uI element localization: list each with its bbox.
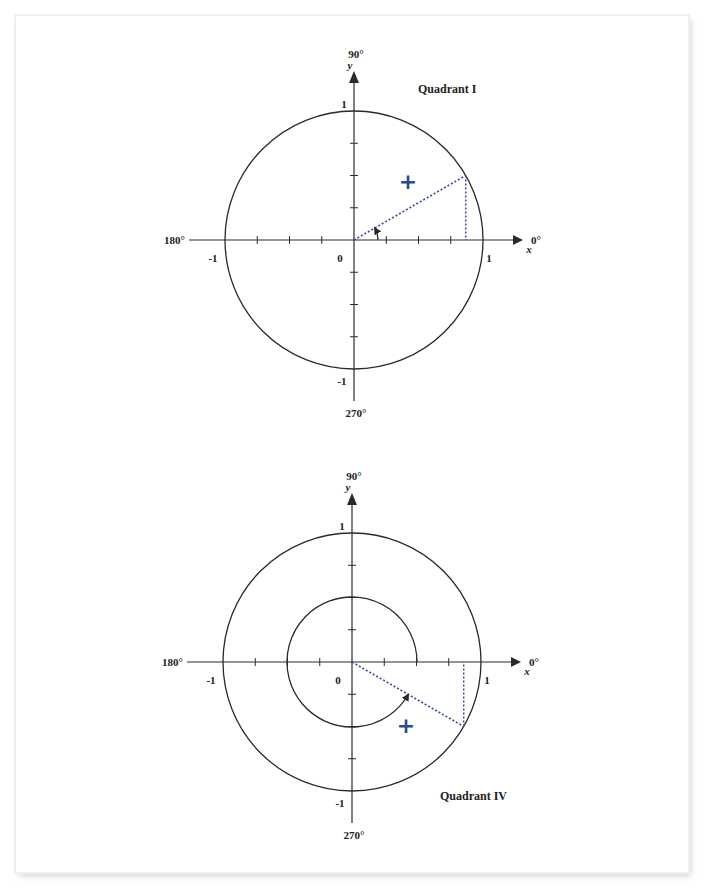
label-0-degrees: 0°: [531, 234, 541, 246]
x-pos-one-label: 1: [486, 252, 492, 264]
angle-arc-arrow-icon: [375, 228, 378, 240]
unit-circle-diagrams: +90°y1-1270°180°-1010°xQuadrant I+90°y1-…: [0, 0, 705, 888]
origin-label: 0: [337, 252, 343, 264]
quadrant-title: Quadrant IV: [440, 789, 507, 803]
label-270-degrees: 270°: [344, 829, 365, 841]
origin-label: 0: [335, 674, 341, 686]
x-pos-one-label: 1: [484, 674, 490, 686]
y-axis-label: y: [344, 481, 351, 493]
x-neg-one-label: -1: [208, 252, 217, 264]
x-axis-arrowhead-icon: [513, 235, 523, 245]
x-axis-label: x: [525, 243, 532, 255]
y-axis-label: y: [346, 59, 353, 71]
quadrant-title: Quadrant I: [418, 82, 477, 96]
label-180-degrees: 180°: [164, 234, 185, 246]
diagram-quadrant-1: +90°y1-1270°180°-1010°xQuadrant I: [164, 48, 541, 419]
positive-sign-icon: +: [397, 713, 415, 738]
label-180-degrees: 180°: [162, 656, 183, 668]
diagram-quadrant-4: +90°y1-1270°180°-1010°xQuadrant IV: [162, 470, 539, 841]
y-axis-arrowhead-icon: [349, 71, 359, 83]
label-270-degrees: 270°: [346, 407, 367, 419]
label-0-degrees: 0°: [529, 656, 539, 668]
x-axis-label: x: [523, 665, 530, 677]
x-axis-arrowhead-icon: [511, 657, 521, 667]
positive-sign-icon: +: [399, 169, 417, 194]
x-neg-one-label: -1: [206, 674, 215, 686]
y-pos-one-label: 1: [339, 520, 345, 532]
y-axis-arrowhead-icon: [347, 493, 357, 505]
y-pos-one-label: 1: [341, 98, 347, 110]
y-neg-one-label: -1: [337, 375, 346, 387]
y-neg-one-label: -1: [335, 797, 344, 809]
